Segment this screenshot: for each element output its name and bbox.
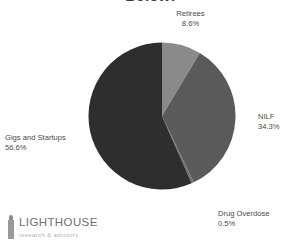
slice-label-nilf-name: NILF [258,112,280,122]
slice-label-retirees: Retirees 8.6% [40,9,301,30]
slice-label-gigs-and-startups-value: 56.6% [5,143,66,153]
slice-label-gigs-and-startups-name: Gigs and Startups [5,133,66,143]
logo-name: LIGHTHOUSE [19,217,98,229]
lighthouse-icon [8,215,15,239]
chart-canvas: Below: Retirees 8.6% NILF 34.3% Drug Ove… [0,0,301,249]
slice-label-drug-overdose-value: 0.5% [218,219,270,229]
logo-text: LIGHTHOUSE research & advisory [19,215,98,238]
logo-tagline: research & advisory [19,232,98,238]
slice-label-drug-overdose-name: Drug Overdose [218,209,270,219]
slice-label-retirees-value: 8.6% [40,19,301,29]
lighthouse-logo: LIGHTHOUSE research & advisory [8,215,98,239]
pie-chart [88,42,236,190]
slice-label-nilf-value: 34.3% [258,122,280,132]
slice-label-gigs-and-startups: Gigs and Startups 56.6% [5,133,66,154]
pie-svg [88,42,236,190]
slice-label-retirees-name: Retirees [40,9,301,19]
slice-label-nilf: NILF 34.3% [258,112,280,133]
pie-slice-group [88,43,235,190]
slice-label-drug-overdose: Drug Overdose 0.5% [218,209,270,230]
chart-title: Below: [0,0,301,4]
